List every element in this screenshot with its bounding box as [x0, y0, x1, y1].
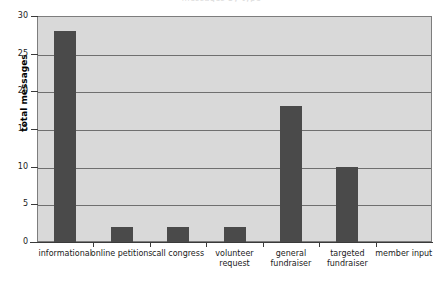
x-axis-tick	[319, 243, 320, 247]
y-axis-label: 15	[0, 125, 28, 133]
x-axis-label: informational	[33, 249, 97, 259]
x-axis-tick	[263, 243, 264, 247]
plot-area	[37, 16, 432, 242]
y-axis-label: 30	[0, 12, 28, 20]
y-axis-tick	[31, 204, 38, 205]
x-axis-label: member input	[372, 249, 436, 259]
y-axis-tick	[31, 16, 38, 17]
y-axis-label: 10	[0, 163, 28, 171]
gridline	[38, 92, 431, 93]
y-axis-label: 0	[0, 238, 28, 246]
gridline	[38, 205, 431, 206]
bar-chart: messages by type total messages 05101520…	[0, 0, 443, 286]
x-axis-label: volunteer request	[202, 249, 266, 268]
x-axis-line	[30, 242, 433, 243]
x-axis-tick	[150, 243, 151, 247]
y-axis-tick	[31, 167, 38, 168]
x-axis-label: online petitions	[89, 249, 153, 259]
gridline	[38, 55, 431, 56]
y-axis-tick	[31, 54, 38, 55]
x-axis-label: targeted fundraiser	[315, 249, 379, 268]
x-axis-label: call congress	[146, 249, 210, 259]
x-axis-tick	[376, 243, 377, 247]
y-axis-tick	[31, 129, 38, 130]
chart-title: messages by type	[0, 0, 443, 2]
x-axis-tick	[93, 243, 94, 247]
y-axis-label: 25	[0, 50, 28, 58]
gridline	[38, 130, 431, 131]
x-axis-label: general fundraiser	[259, 249, 323, 268]
gridline	[38, 168, 431, 169]
x-axis-tick	[206, 243, 207, 247]
y-axis-tick	[31, 91, 38, 92]
y-axis-label: 5	[0, 200, 28, 208]
y-axis-label: 20	[0, 87, 28, 95]
